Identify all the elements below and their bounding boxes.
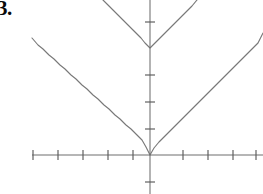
lower-v-curve: [32, 33, 263, 155]
graph-figure: 3.: [0, 0, 263, 194]
y-axis-group: [145, 0, 155, 194]
x-axis-group: [32, 150, 263, 160]
curves-group: [32, 0, 263, 155]
problem-number-label: 3.: [0, 0, 12, 19]
coordinate-plane: [0, 0, 263, 194]
